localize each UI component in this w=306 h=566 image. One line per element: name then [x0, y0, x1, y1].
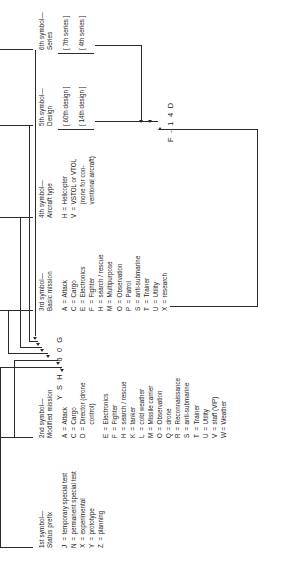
list-item: N = permanent special test	[69, 471, 78, 548]
list-item: C = Cargo	[69, 378, 78, 438]
list-item-key: F	[110, 431, 119, 439]
list-item-key: S	[133, 304, 142, 312]
list-item-continuation: ventional aircraft)	[87, 156, 96, 218]
column-2-list: A = Attack C = Cargo D = Director (drone…	[60, 378, 228, 438]
column-3-ordinal: 3rd symbol—	[38, 273, 45, 311]
list-item-eq: =	[69, 298, 78, 304]
list-item: Y = prototype	[87, 471, 96, 548]
code-arrow-6	[33, 337, 37, 340]
list-item-value: Observation	[115, 264, 124, 298]
list-item-eq: =	[69, 535, 78, 541]
list-item: D = Director (drone	[78, 378, 87, 438]
list-item-eq: =	[78, 425, 87, 431]
list-item-value: experimental	[78, 498, 87, 534]
list-item: V = VSTOL or VTOL	[69, 156, 78, 218]
connector-col2-vertical	[14, 361, 58, 362]
column-2-ordinal: 2nd symbol—	[38, 398, 45, 438]
list-item-eq: =	[133, 298, 142, 304]
list-item-key: P	[124, 304, 133, 312]
list-item-eq: =	[142, 298, 151, 304]
list-item-value: permanent special test	[69, 471, 78, 534]
list-item-key: T	[142, 304, 151, 312]
list-item-eq: =	[119, 425, 128, 431]
list-item-key: C	[69, 304, 78, 312]
list-item: J = temporary special test	[60, 471, 69, 548]
list-item-key: X	[160, 304, 169, 312]
list-item: K = tanker	[128, 378, 137, 438]
list-item-value: (none for con-	[78, 165, 87, 204]
list-item: Z = planning	[96, 471, 105, 548]
column-5-name: Design	[46, 88, 54, 126]
list-item-value: research	[160, 273, 169, 298]
column-1-list: J = temporary special test N = permanent…	[60, 471, 105, 548]
column-5-heading: 5th symbol— Design	[38, 88, 55, 126]
list-item-key: F	[87, 304, 96, 312]
list-item: H = search / rescue	[119, 378, 128, 438]
list-item-eq: =	[69, 425, 78, 431]
list-item-key: E	[78, 304, 87, 312]
column-4-name: Aircraft type	[46, 180, 54, 218]
connector-col6-horizontal	[35, 50, 36, 336]
list-item-key: H	[119, 431, 128, 439]
list-item-eq: =	[60, 205, 69, 211]
list-item-eq: =	[115, 298, 124, 304]
list-item-value: prototype	[87, 508, 96, 534]
connector-col4-horizontal	[20, 218, 21, 348]
list-item-value: Helicopter	[60, 176, 69, 204]
list-item-value: temporary special test	[60, 473, 69, 535]
list-item: F = Fighter	[87, 254, 96, 311]
example-code-primary: Y S H - 6 0 G	[55, 335, 64, 400]
list-item-eq: =	[124, 298, 133, 304]
list-item-key: T	[192, 431, 201, 439]
list-item-value: planning	[96, 511, 105, 535]
list-item-eq	[78, 205, 87, 211]
list-item: M = Missile carrier	[146, 378, 155, 438]
column-3-heading: 3rd symbol— Basic mission	[38, 271, 55, 311]
connector-f14-col3-vertical	[170, 306, 258, 307]
connector-col5-horizontal	[29, 126, 30, 342]
list-item-eq: =	[182, 425, 191, 431]
list-item-eq: =	[128, 425, 137, 431]
list-item-value: staff (VIP)	[210, 397, 219, 425]
list-item: H = Helicopter	[60, 156, 69, 218]
list-item-eq: =	[201, 425, 210, 431]
list-item: Q = drone	[164, 378, 173, 438]
list-item: M = Multipurpose	[105, 254, 114, 311]
list-item: S = anti-submarine	[182, 378, 191, 438]
connector-col1-vertical	[0, 367, 62, 368]
connector-col3-horizontal	[8, 311, 9, 354]
code-arrow-4	[40, 349, 44, 352]
list-item-key: L	[137, 431, 146, 439]
code-arrow-5	[36, 343, 40, 346]
list-item-eq: =	[105, 298, 114, 304]
column-6-ordinal: 6th symbol—	[38, 12, 45, 50]
column-5-bracket-divider	[58, 129, 94, 130]
list-item-eq: =	[155, 425, 164, 431]
list-item-eq: =	[69, 205, 78, 211]
list-item-key: H	[96, 304, 105, 312]
list-item-eq: =	[137, 425, 146, 431]
list-item-key: Y	[87, 541, 96, 549]
column-1-heading: 1st symbol— Status prefix	[38, 511, 55, 549]
list-item-value: Trainer	[142, 278, 151, 298]
connector-col3-vertical	[8, 353, 48, 354]
list-item-value: Multipurpose	[105, 261, 114, 297]
list-item-value: Cargo	[69, 407, 78, 424]
list-item: R = Reconnaissance	[173, 378, 182, 438]
column-4-list: H = Helicopter V = VSTOL or VTOL (none f…	[60, 156, 96, 218]
list-item: L = cold weather	[137, 378, 146, 438]
list-item-value: Weather	[219, 401, 228, 425]
list-item-key: O	[115, 304, 124, 312]
column-6-bracket-1: [ 7th series ]	[62, 16, 71, 50]
list-item-value: Trainer	[192, 405, 201, 425]
list-item-value: Attack	[60, 407, 69, 425]
list-item-key: N	[69, 541, 78, 549]
column-6-heading: 6th symbol— Series	[38, 12, 55, 50]
list-item-value: anti-submarine	[133, 256, 142, 298]
list-item: O = Observation	[115, 254, 124, 311]
list-item-eq: =	[101, 425, 110, 431]
column-6-rule	[0, 49, 33, 50]
list-item: V = staff (VIP)	[210, 378, 219, 438]
list-item-key: D	[78, 431, 87, 439]
list-item-key: W	[219, 431, 228, 439]
